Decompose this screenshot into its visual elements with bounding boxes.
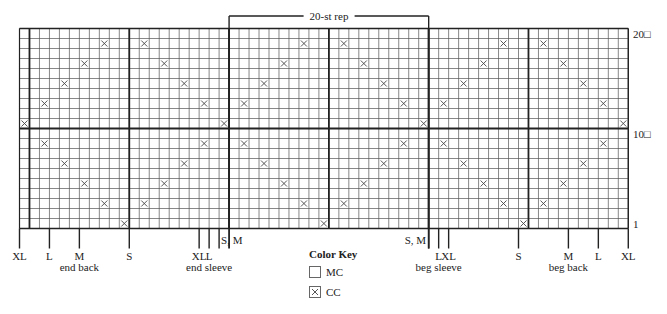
repeat-label: 20-st rep: [304, 10, 355, 22]
size-marker-sublabel: beg back: [549, 261, 588, 273]
size-marker-label: XL: [441, 250, 456, 262]
size-marker-label: XL: [12, 250, 27, 262]
key-label-mc: MC: [326, 266, 343, 278]
key-item-cc: CC: [309, 286, 341, 298]
size-marker-sublabel: beg sleeve: [416, 261, 462, 273]
key-label-cc: CC: [326, 286, 341, 298]
x-square-icon: [309, 286, 321, 298]
size-marker-label: S: [126, 250, 132, 262]
size-marker-label: L: [46, 250, 53, 262]
row-label: 10□: [633, 128, 651, 140]
size-marker-label: XL: [621, 250, 636, 262]
size-marker-label: S, M: [221, 234, 242, 246]
row-label: 1: [633, 218, 639, 230]
key-item-mc: MC: [309, 266, 343, 278]
size-marker-sublabel: end sleeve: [186, 261, 232, 273]
row-label: 20□: [633, 28, 651, 40]
color-key-title: Color Key: [309, 248, 357, 260]
size-marker-sublabel: end back: [60, 261, 99, 273]
size-marker-label: L: [595, 250, 602, 262]
size-marker-label: S, M: [405, 234, 426, 246]
blank-square-icon: [309, 266, 321, 278]
size-marker-label: S: [515, 250, 521, 262]
